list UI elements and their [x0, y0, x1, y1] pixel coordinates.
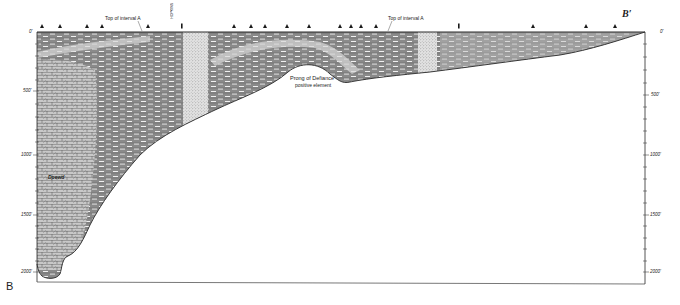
cross-section-svg	[0, 0, 680, 305]
vertical-well-label: HOPKINS	[170, 3, 174, 19]
feature-label-line2: positive element	[295, 82, 331, 88]
left-axis-label-1000: 1000'	[21, 152, 32, 157]
feature-label-line1: Prong of Defiance	[290, 75, 334, 81]
leader-line-right	[388, 21, 392, 31]
right-axis-label-1500: 1500'	[650, 212, 661, 217]
right-axis-label-500: 500'	[651, 92, 659, 97]
right-axis-label-2000: 2000'	[650, 269, 661, 274]
top-of-interval-a-left-label: Top of interval A	[105, 15, 141, 21]
section-end-label: B′	[622, 8, 631, 19]
left-axis-label-2000: 2000'	[21, 269, 32, 274]
baseline	[37, 282, 645, 284]
lithology-note-label: Dpewd	[48, 174, 64, 180]
leader-line-left	[138, 21, 142, 31]
cross-section-figure: Top of interval A Top of interval A HOPK…	[0, 0, 680, 305]
section-start-label: B	[6, 280, 13, 292]
top-of-interval-a-right-label: Top of interval A	[388, 15, 424, 21]
right-axis-label-0: 0'	[660, 29, 663, 34]
well-markers	[40, 24, 617, 29]
left-axis-label-1500: 1500'	[21, 212, 32, 217]
right-axis-label-1000: 1000'	[650, 152, 661, 157]
right-axis-ticks	[643, 44, 649, 272]
strata-body	[0, 0, 680, 305]
left-axis-label-500: 500'	[23, 88, 31, 93]
left-axis-label-0: 0'	[29, 29, 32, 34]
